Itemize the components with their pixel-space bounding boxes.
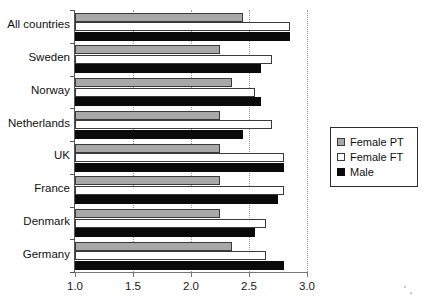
bar-male bbox=[75, 32, 290, 41]
bar-ft bbox=[75, 22, 290, 31]
artifact-speck bbox=[410, 292, 412, 294]
bar-pt bbox=[75, 111, 220, 120]
plot-area bbox=[75, 10, 307, 272]
bar-ft bbox=[75, 153, 284, 162]
bar-pt bbox=[75, 242, 232, 251]
legend-label-male: Male bbox=[350, 166, 374, 178]
category-label: Sweden bbox=[0, 51, 70, 63]
legend-swatch-female-pt bbox=[337, 138, 345, 146]
value-tick bbox=[307, 272, 308, 277]
bar-ft bbox=[75, 251, 266, 260]
legend-label-female-ft: Female FT bbox=[350, 151, 403, 163]
value-tick-label: 2.5 bbox=[241, 280, 257, 292]
legend-label-female-pt: Female PT bbox=[350, 136, 404, 148]
category-label: France bbox=[0, 182, 70, 194]
value-tick bbox=[191, 272, 192, 277]
bar-ft bbox=[75, 219, 266, 228]
bar-pt bbox=[75, 78, 232, 87]
category-tick bbox=[70, 10, 75, 11]
value-tick bbox=[249, 272, 250, 277]
value-tick-label: 2.0 bbox=[183, 280, 199, 292]
bar-pt bbox=[75, 176, 220, 185]
bar-ft bbox=[75, 120, 272, 129]
category-tick bbox=[70, 108, 75, 109]
bar-male bbox=[75, 97, 261, 106]
category-tick bbox=[70, 207, 75, 208]
category-label: Norway bbox=[0, 84, 70, 96]
legend: Female PT Female FT Male bbox=[330, 127, 418, 187]
artifact-speck bbox=[404, 286, 406, 288]
category-tick bbox=[70, 43, 75, 44]
bar-ft bbox=[75, 186, 284, 195]
bar-ft bbox=[75, 55, 272, 64]
legend-item-female-pt: Female PT bbox=[337, 136, 413, 148]
legend-item-male: Male bbox=[337, 166, 413, 178]
bar-pt bbox=[75, 45, 220, 54]
bar-pt bbox=[75, 13, 243, 22]
value-tick-label: 3.0 bbox=[299, 280, 315, 292]
category-tick bbox=[70, 239, 75, 240]
gridline bbox=[307, 10, 308, 272]
bar-male bbox=[75, 228, 255, 237]
value-tick-label: 1.0 bbox=[67, 280, 83, 292]
bar-male bbox=[75, 195, 278, 204]
category-label: Netherlands bbox=[0, 117, 70, 129]
value-tick-label: 1.5 bbox=[125, 280, 141, 292]
category-tick bbox=[70, 174, 75, 175]
bar-male bbox=[75, 64, 261, 73]
category-label: Denmark bbox=[0, 215, 70, 227]
bar-male bbox=[75, 163, 284, 172]
bar-pt bbox=[75, 144, 220, 153]
bar-chart: 1.01.52.02.53.0 All countriesSwedenNorwa… bbox=[0, 0, 426, 306]
category-label: UK bbox=[0, 149, 70, 161]
value-tick bbox=[133, 272, 134, 277]
bar-male bbox=[75, 261, 284, 270]
legend-item-female-ft: Female FT bbox=[337, 151, 413, 163]
bar-pt bbox=[75, 209, 220, 218]
bar-ft bbox=[75, 88, 255, 97]
category-tick bbox=[70, 141, 75, 142]
legend-swatch-male bbox=[337, 168, 345, 176]
category-tick bbox=[70, 76, 75, 77]
bar-male bbox=[75, 130, 243, 139]
category-label: Germany bbox=[0, 248, 70, 260]
value-tick bbox=[75, 272, 76, 277]
category-label: All countries bbox=[0, 18, 70, 30]
legend-swatch-female-ft bbox=[337, 153, 345, 161]
